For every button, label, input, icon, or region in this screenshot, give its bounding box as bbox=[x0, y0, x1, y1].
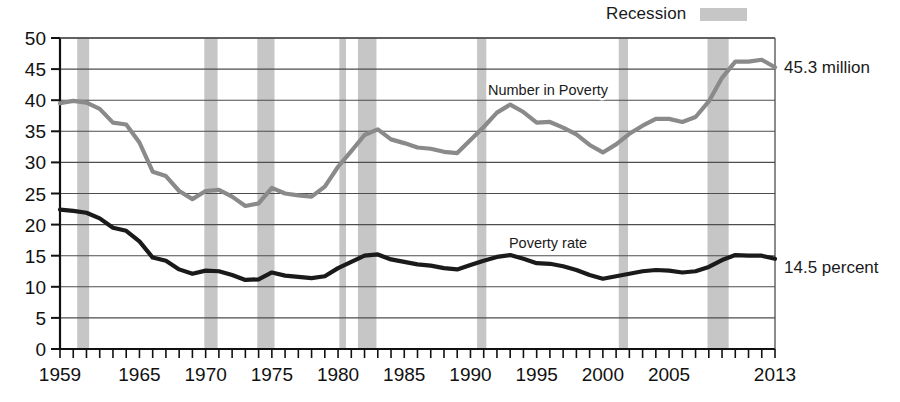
y-tick-label: 35 bbox=[25, 121, 46, 142]
chart-plot-area: 0510152025303540455019591965197019751980… bbox=[0, 0, 900, 402]
annotation-rate-endpoint: 14.5 percent bbox=[784, 258, 879, 278]
legend-label-recession: Recession bbox=[606, 4, 686, 24]
y-tick-label: 20 bbox=[25, 215, 46, 236]
series-label-number-in-poverty: Number in Poverty bbox=[488, 82, 609, 98]
x-tick-label: 1985 bbox=[383, 364, 425, 385]
x-tick-label: 2013 bbox=[754, 364, 796, 385]
x-tick-label: 1980 bbox=[317, 364, 359, 385]
series-line bbox=[60, 60, 775, 206]
y-tick-label: 10 bbox=[25, 277, 46, 298]
x-tick-label: 1975 bbox=[251, 364, 293, 385]
y-tick-label: 15 bbox=[25, 246, 46, 267]
x-tick-label: 2000 bbox=[582, 364, 624, 385]
y-axis-ticks-group: 05101520253035404550 bbox=[25, 28, 60, 360]
y-tick-label: 25 bbox=[25, 184, 46, 205]
series-line bbox=[60, 210, 775, 280]
x-tick-label: 1970 bbox=[185, 364, 227, 385]
y-tick-label: 5 bbox=[35, 308, 46, 329]
series-label-poverty-rate: Poverty rate bbox=[509, 235, 587, 251]
legend-swatch-recession bbox=[700, 8, 747, 21]
x-tick-label: 2005 bbox=[648, 364, 690, 385]
y-tick-label: 50 bbox=[25, 28, 46, 49]
x-tick-label: 1965 bbox=[118, 364, 160, 385]
x-tick-label: 1995 bbox=[516, 364, 558, 385]
poverty-chart: Recession 45.3 million 14.5 percent 0510… bbox=[0, 0, 900, 402]
y-tick-label: 30 bbox=[25, 152, 46, 173]
series-group bbox=[60, 60, 775, 280]
x-tick-label: 1990 bbox=[449, 364, 491, 385]
annotation-number-endpoint: 45.3 million bbox=[784, 58, 870, 78]
y-tick-label: 0 bbox=[35, 339, 46, 360]
chart-legend: Recession bbox=[606, 4, 747, 24]
y-tick-label: 40 bbox=[25, 90, 46, 111]
y-tick-label: 45 bbox=[25, 59, 46, 80]
x-axis-ticks-group: 1959196519701975198019851990199520002005… bbox=[39, 349, 796, 385]
x-tick-label: 1959 bbox=[39, 364, 81, 385]
